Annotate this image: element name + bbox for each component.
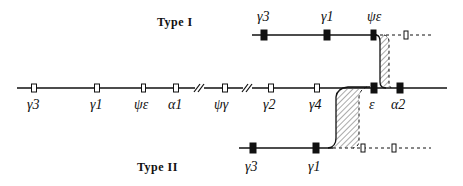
type-ii-gene-box-deleted-1 <box>361 144 365 152</box>
gene-box-psi-epsilon <box>142 84 146 92</box>
gene-box-gamma1 <box>95 84 100 92</box>
type-ii-gene-box-gamma1 <box>313 143 319 153</box>
gene-label-gamma1: γ1 <box>90 97 103 112</box>
gene-label-gamma2: γ2 <box>263 97 276 112</box>
type-i-gene-label-gamma1: γ1 <box>321 9 334 24</box>
gene-label-alpha2: α2 <box>391 97 405 112</box>
gene-box-gamma4 <box>315 84 320 92</box>
type-ii-crossover-region <box>328 87 367 148</box>
type-i-gene-box-gamma1 <box>324 30 330 40</box>
gene-label-epsilon: ε <box>369 97 375 112</box>
type-ii-label: Type II <box>137 160 178 174</box>
type-i-label: Type I <box>157 15 193 29</box>
type-ii-gene-label-gamma1: γ1 <box>308 159 321 174</box>
gene-box-psi-gamma <box>223 84 228 92</box>
gene-box-epsilon <box>371 83 377 93</box>
type-i-gene-box-psi-epsilon <box>371 30 376 40</box>
type-i-gene-box-deleted <box>404 31 408 39</box>
gene-label-alpha1: α1 <box>168 97 182 112</box>
break-mark <box>242 84 252 92</box>
gene-label-psi-gamma: ψγ <box>214 97 229 112</box>
gene-label-psi-epsilon: ψε <box>134 97 149 112</box>
type-i-gene-label-gamma3: γ3 <box>257 9 270 24</box>
type-i-crossover-region <box>376 35 391 88</box>
type-i-chromosome: γ3 γ1 ψε <box>252 9 431 88</box>
type-ii-gene-label-gamma3: γ3 <box>245 159 258 174</box>
chromosome-deletion-diagram: Type I Type II γ3 γ1 ψε α1 ψγ γ2 γ <box>0 0 463 186</box>
gene-box-gamma2 <box>269 84 274 92</box>
gene-box-gamma3 <box>32 84 37 92</box>
type-i-gene-box-gamma3 <box>261 30 267 40</box>
gene-box-alpha1 <box>174 84 179 92</box>
gene-box-alpha2 <box>397 83 403 93</box>
type-ii-gene-box-gamma3 <box>250 143 256 153</box>
gene-label-gamma4: γ4 <box>309 97 322 112</box>
type-i-gene-label-psi-epsilon: ψε <box>367 9 382 24</box>
type-ii-gene-box-deleted-2 <box>392 144 396 152</box>
break-mark <box>194 84 204 92</box>
gene-label-gamma3: γ3 <box>27 97 40 112</box>
